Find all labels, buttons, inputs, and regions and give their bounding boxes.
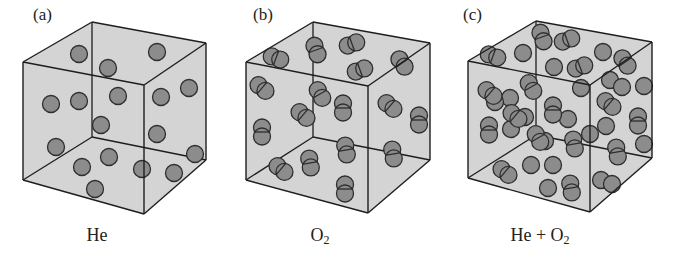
helium-atom <box>43 96 60 113</box>
oxygen-molecule <box>481 117 498 143</box>
oxygen-molecule <box>562 175 581 201</box>
helium-atom <box>502 90 519 107</box>
oxygen-molecule <box>301 150 320 176</box>
oxygen-molecule <box>337 176 354 202</box>
gas-mixture-figure <box>0 0 681 258</box>
oxygen-molecule <box>630 108 647 134</box>
caption-oxygen: O2 <box>311 226 330 246</box>
cube-fill <box>23 22 206 214</box>
oxygen-molecule <box>545 97 562 123</box>
helium-atom <box>598 118 615 135</box>
helium-atom <box>71 93 88 110</box>
caption-helium: He <box>87 226 108 244</box>
helium-atom <box>93 117 110 134</box>
caption-mixture-subscript: 2 <box>564 233 570 247</box>
helium-atom <box>636 136 653 153</box>
helium-atom <box>153 89 170 106</box>
helium-atom <box>187 146 204 163</box>
helium-atom <box>134 161 151 178</box>
helium-atom <box>166 165 183 182</box>
helium-atom <box>100 60 117 77</box>
caption-mixture: He + O2 <box>510 226 569 246</box>
helium-atom <box>636 78 653 95</box>
helium-atom <box>546 59 563 76</box>
panel-a <box>23 22 206 214</box>
helium-atom <box>101 149 118 166</box>
panel-label-c: (c) <box>463 6 482 23</box>
helium-atom <box>149 44 166 61</box>
panel-label-a: (a) <box>33 6 52 23</box>
panel-c <box>468 21 653 212</box>
oxygen-molecule <box>411 107 428 133</box>
helium-atom <box>614 79 631 96</box>
oxygen-molecule <box>384 141 403 167</box>
helium-atom <box>48 139 65 156</box>
caption-oxygen-text: O <box>311 225 324 245</box>
oxygen-molecule <box>608 139 627 165</box>
helium-atom <box>87 181 104 198</box>
helium-atom <box>181 80 198 97</box>
oxygen-molecule <box>565 131 584 157</box>
caption-oxygen-subscript: 2 <box>324 233 330 247</box>
panel-label-b: (b) <box>253 6 273 23</box>
oxygen-molecule <box>337 137 356 163</box>
helium-atom <box>74 159 91 176</box>
caption-mixture-text: He + O <box>510 225 563 245</box>
helium-atom <box>595 44 612 61</box>
helium-atom <box>560 111 577 128</box>
helium-atom <box>545 157 562 174</box>
helium-atom <box>110 88 127 105</box>
helium-atom <box>523 157 540 174</box>
oxygen-molecule <box>335 95 352 121</box>
panel-b <box>246 22 430 213</box>
oxygen-molecule <box>254 119 271 145</box>
helium-atom <box>540 180 557 197</box>
caption-helium-text: He <box>87 225 108 245</box>
helium-atom <box>149 126 166 143</box>
helium-atom <box>515 45 532 62</box>
helium-atom <box>604 176 621 193</box>
helium-atom <box>71 46 88 63</box>
